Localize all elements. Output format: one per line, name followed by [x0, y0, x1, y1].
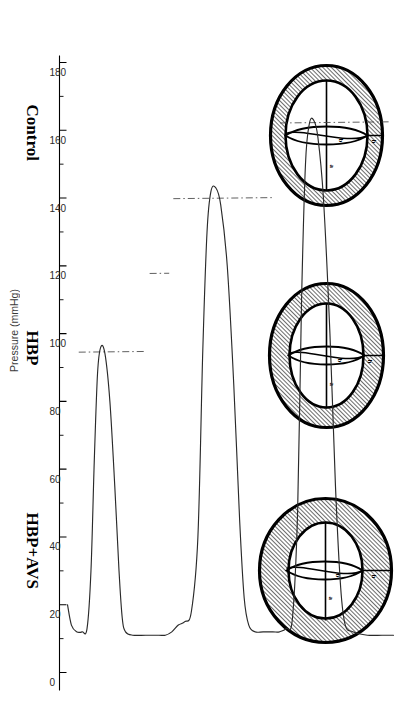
axis-tick-label: 100: [49, 337, 66, 348]
condition-label-hbp-avs: HBP+AVS: [21, 512, 41, 588]
pressure-tracing-plot: [0, 0, 411, 710]
axis-tick-label: 80: [49, 405, 60, 416]
axis-tick-label: 60: [49, 473, 60, 484]
reference-line: [280, 121, 391, 122]
rotated-figure: h b a h b: [0, 0, 411, 710]
pressure-waveform: [67, 118, 393, 635]
axis-tick-label: 140: [49, 202, 66, 213]
axis-tick-label: 160: [49, 134, 66, 145]
reference-lines: [76, 121, 393, 351]
axis-title-pressure: Pressure (mmHg): [7, 240, 19, 420]
reference-line: [173, 197, 274, 198]
axis-tick-label: 40: [49, 540, 60, 551]
reference-line: [78, 351, 143, 352]
axis-tick-label: 120: [49, 269, 66, 280]
axis-tick-label: 0: [49, 676, 55, 687]
axis-tick-label: 20: [49, 608, 60, 619]
axis-tick-label: 180: [49, 66, 66, 77]
figure-canvas: h b a h b: [0, 0, 411, 710]
condition-label-hbp: HBP: [21, 330, 41, 365]
pressure-tracing-svg: [0, 0, 411, 710]
condition-label-control: Control: [21, 104, 41, 160]
